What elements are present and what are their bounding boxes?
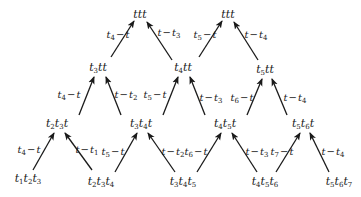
math-symbol: t bbox=[36, 144, 40, 155]
math-symbol: t bbox=[230, 8, 234, 21]
math-symbol: t bbox=[322, 146, 326, 157]
math-symbol: t bbox=[289, 146, 293, 157]
lattice-node-n24: t5t6t bbox=[292, 118, 314, 131]
edge-label: t4−t bbox=[58, 90, 81, 102]
minus-sign: − bbox=[111, 146, 119, 157]
arrow-edge bbox=[79, 77, 94, 115]
subscript: 4 bbox=[340, 151, 344, 159]
edge-label: t−t4 bbox=[245, 30, 268, 42]
math-symbol: t bbox=[64, 117, 68, 130]
lattice-diagram: t4−tt−t3t5−tt−t4t4−tt−t2t5−tt−t3t6−tt−t4… bbox=[0, 0, 361, 197]
math-symbol: t bbox=[125, 29, 129, 40]
math-symbol: t bbox=[115, 89, 119, 100]
subscript: 4 bbox=[302, 97, 306, 105]
subscript: 3 bbox=[176, 32, 180, 40]
subscript: 3 bbox=[218, 97, 222, 105]
math-symbol: t bbox=[212, 29, 216, 40]
minus-sign: − bbox=[251, 146, 259, 157]
minus-sign: − bbox=[280, 146, 288, 157]
minus-sign: − bbox=[205, 92, 213, 103]
math-symbol: t bbox=[269, 63, 273, 76]
edge-label: t4−t bbox=[107, 30, 130, 42]
minus-sign: − bbox=[250, 29, 258, 40]
lattice-node-n21: t2t3t bbox=[46, 118, 68, 131]
lattice-node-n13: t5tt bbox=[256, 64, 274, 77]
math-symbol: t bbox=[284, 92, 288, 103]
lattice-node-n31: t1t2t3 bbox=[15, 173, 42, 186]
lattice-node-n23: t4t5t bbox=[214, 118, 236, 131]
edge-label: t−t1 bbox=[76, 145, 99, 157]
math-symbol: t bbox=[142, 8, 146, 21]
edge-label: t−t4 bbox=[322, 147, 345, 159]
math-symbol: t bbox=[162, 89, 166, 100]
lattice-node-n12: t4tt bbox=[174, 62, 192, 75]
edge-label: t−t3 bbox=[246, 147, 269, 159]
lattice-node-n01: ttt bbox=[133, 9, 146, 20]
minus-sign: − bbox=[167, 146, 175, 157]
minus-sign: − bbox=[27, 144, 35, 155]
subscript: 7 bbox=[275, 151, 279, 159]
minus-sign: − bbox=[67, 89, 75, 100]
edge-label: t6−t bbox=[231, 93, 254, 105]
math-symbol: t bbox=[162, 146, 166, 157]
lattice-node-n35: t5t6t7 bbox=[326, 176, 353, 189]
subscript: 6 bbox=[235, 97, 239, 105]
subscript: 5 bbox=[192, 181, 196, 189]
lattice-node-n32: t2t3t4 bbox=[88, 176, 115, 189]
lattice-node-n02: ttt bbox=[221, 9, 234, 20]
edge-label: t6−t bbox=[185, 147, 208, 159]
lattice-node-n33: t3t4t5 bbox=[170, 176, 197, 189]
math-symbol: t bbox=[203, 146, 207, 157]
math-symbol: t bbox=[148, 117, 152, 130]
math-symbol: t bbox=[76, 89, 80, 100]
lattice-node-n34: t4t5t6 bbox=[252, 176, 279, 189]
subscript: 4 bbox=[111, 34, 115, 42]
edge-label: t−t3 bbox=[200, 93, 223, 105]
edge-label: t−t3 bbox=[158, 28, 181, 40]
minus-sign: − bbox=[327, 146, 335, 157]
subscript: 5 bbox=[148, 94, 152, 102]
subscript: 4 bbox=[263, 34, 267, 42]
edge-label: t7−t bbox=[271, 147, 294, 159]
math-symbol: t bbox=[102, 61, 106, 74]
subscript: 4 bbox=[22, 149, 26, 157]
subscript: 7 bbox=[348, 181, 352, 189]
math-symbol: t bbox=[158, 27, 162, 38]
math-symbol: t bbox=[310, 117, 314, 130]
subscript: 5 bbox=[106, 151, 110, 159]
subscript: 6 bbox=[274, 181, 278, 189]
math-symbol: t bbox=[187, 61, 191, 74]
math-symbol: t bbox=[200, 92, 204, 103]
subscript: 1 bbox=[94, 149, 98, 157]
edge-label: t−t2 bbox=[115, 90, 138, 102]
edge-layer bbox=[0, 0, 361, 197]
math-symbol: t bbox=[120, 146, 124, 157]
subscript: 6 bbox=[189, 151, 193, 159]
subscript: 4 bbox=[62, 94, 66, 102]
edge-label: t−t4 bbox=[284, 93, 307, 105]
subscript: 3 bbox=[264, 151, 268, 159]
minus-sign: − bbox=[194, 146, 202, 157]
lattice-node-n22: t3t4t bbox=[130, 118, 152, 131]
subscript: 3 bbox=[37, 178, 41, 186]
lattice-node-n11: t3tt bbox=[89, 62, 107, 75]
subscript: 2 bbox=[133, 94, 137, 102]
edge-label: t5−t bbox=[194, 30, 217, 42]
edge-label: t4−t bbox=[18, 145, 41, 157]
math-symbol: t bbox=[232, 117, 236, 130]
edge-label: t5−t bbox=[144, 90, 167, 102]
math-symbol: t bbox=[246, 146, 250, 157]
edge-label: t5−t bbox=[102, 147, 125, 159]
minus-sign: − bbox=[240, 92, 248, 103]
subscript: 5 bbox=[198, 34, 202, 42]
minus-sign: − bbox=[289, 92, 297, 103]
edge-label: t−t2 bbox=[162, 147, 185, 159]
minus-sign: − bbox=[163, 27, 171, 38]
math-symbol: t bbox=[249, 92, 253, 103]
math-symbol: t bbox=[245, 29, 249, 40]
minus-sign: − bbox=[116, 29, 124, 40]
math-symbol: t bbox=[76, 144, 80, 155]
minus-sign: − bbox=[120, 89, 128, 100]
minus-sign: − bbox=[153, 89, 161, 100]
subscript: 4 bbox=[110, 181, 114, 189]
